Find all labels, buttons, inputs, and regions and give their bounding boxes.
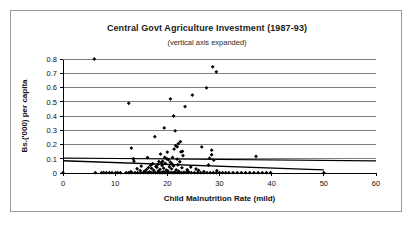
svg-text:0.2: 0.2 [47,140,57,149]
svg-text:Bs.('000) per capita: Bs.('000) per capita [20,79,29,153]
svg-text:30: 30 [215,179,223,188]
svg-text:0.6: 0.6 [47,83,57,92]
svg-text:Child Malnutrition Rate (mild): Child Malnutrition Rate (mild) [164,194,276,203]
chart-frame: Central Govt Agriculture Investment (198… [10,10,402,212]
svg-text:0: 0 [53,169,57,178]
svg-text:60: 60 [372,179,380,188]
plot-area: 00.10.20.30.40.50.60.70.8 0102030405060 … [11,11,403,213]
scatter-chart: 00.10.20.30.40.50.60.70.8 0102030405060 … [11,11,403,213]
svg-text:0.5: 0.5 [47,98,57,107]
svg-text:0.1: 0.1 [47,155,57,164]
svg-text:0: 0 [61,179,65,188]
svg-text:0.3: 0.3 [47,126,57,135]
svg-text:20: 20 [163,179,171,188]
x-axis-ticks: 0102030405060 [61,173,380,188]
svg-text:40: 40 [267,179,275,188]
svg-text:10: 10 [111,179,119,188]
svg-text:50: 50 [320,179,328,188]
gridlines [63,59,376,159]
svg-text:0.8: 0.8 [47,55,57,64]
svg-text:0.7: 0.7 [47,69,57,78]
trend-lines [63,158,376,170]
y-axis-ticks: 00.10.20.30.40.50.60.70.8 [47,55,63,178]
axis-labels: Child Malnutrition Rate (mild)Bs.('000) … [20,79,276,203]
svg-text:0.4: 0.4 [47,112,57,121]
